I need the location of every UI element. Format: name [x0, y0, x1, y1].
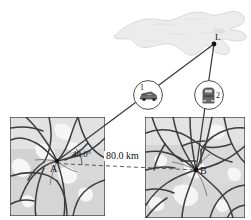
point-a-label: A	[50, 164, 57, 174]
point-b-label: B	[200, 166, 207, 176]
point-b-marker	[194, 168, 199, 173]
observer-1-inset	[134, 81, 163, 110]
lake-shape-icon	[114, 11, 247, 55]
distance-label: 80.0 km	[104, 151, 141, 161]
point-l-label: L	[215, 33, 221, 42]
left-map-inset	[10, 117, 105, 216]
car-front-icon	[203, 88, 214, 103]
observer-2-label: 2	[216, 92, 220, 100]
angle-label: 40.0°	[72, 150, 91, 159]
right-map-inset	[145, 117, 245, 218]
figure-canvas	[0, 0, 251, 220]
point-l-marker	[212, 42, 217, 47]
observer-1-label: 1	[140, 84, 144, 92]
lightning-triangulation-figure: L A B 1 2 40.0° 80.0 km	[0, 0, 251, 220]
